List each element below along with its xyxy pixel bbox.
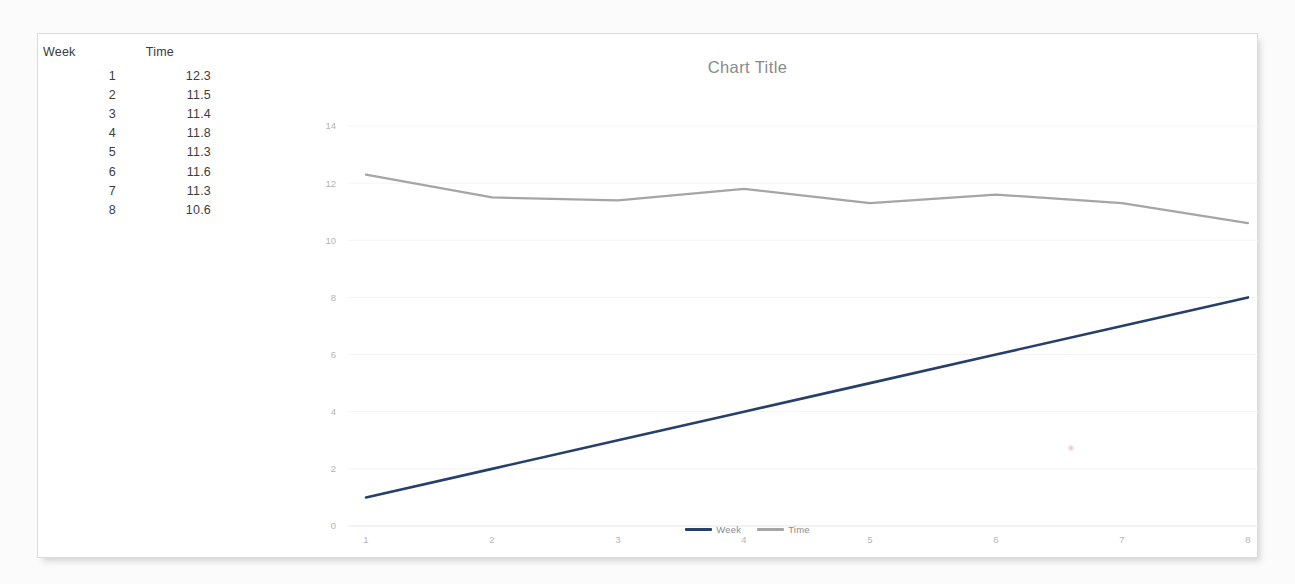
table-row: 211.5: [43, 85, 233, 104]
cell-week: 2: [43, 85, 124, 104]
table-row: 112.3: [43, 66, 233, 85]
table-row: 711.3: [43, 181, 233, 200]
chart: Chart Title 02468101214 12345678 WeekTim…: [238, 34, 1257, 557]
week-time-table: Week Time 112.3211.5311.4411.8511.3611.6…: [43, 45, 233, 220]
legend-label: Week: [716, 524, 741, 535]
y-tick-label: 8: [331, 292, 336, 303]
chart-plot-area: 02468101214 12345678: [238, 34, 1259, 559]
table-row: 611.6: [43, 162, 233, 181]
cell-time: 11.3: [124, 143, 233, 162]
x-tick-label: 3: [615, 534, 620, 545]
cell-time: 12.3: [124, 66, 233, 85]
cell-week: 3: [43, 104, 124, 123]
x-tick-label: 1: [363, 534, 368, 545]
y-axis-tick-labels: 02468101214: [325, 120, 336, 531]
cell-time: 11.5: [124, 85, 233, 104]
table-row: 810.6: [43, 200, 233, 219]
series-line-week: [366, 297, 1248, 497]
cell-week: 5: [43, 143, 124, 162]
x-tick-label: 6: [993, 534, 998, 545]
y-tick-label: 12: [325, 178, 336, 189]
x-axis-tick-labels: 12345678: [363, 534, 1250, 545]
cell-week: 1: [43, 66, 124, 85]
scanned-page-card: Week Time 112.3211.5311.4411.8511.3611.6…: [37, 33, 1258, 558]
cell-time: 11.3: [124, 181, 233, 200]
x-tick-label: 4: [741, 534, 746, 545]
series-line-time: [366, 175, 1248, 224]
cell-time: 11.4: [124, 104, 233, 123]
table-row: 411.8: [43, 124, 233, 143]
cell-week: 4: [43, 124, 124, 143]
column-header-time: Time: [124, 45, 233, 66]
scan-artifact-speck: [1069, 446, 1073, 450]
legend-swatch-week: [685, 528, 712, 531]
table-row: 511.3: [43, 143, 233, 162]
table-body: 112.3211.5311.4411.8511.3611.6711.3810.6: [43, 66, 233, 220]
x-tick-label: 8: [1245, 534, 1250, 545]
y-tick-label: 10: [325, 235, 336, 246]
y-tick-label: 4: [331, 406, 336, 417]
table-row: 311.4: [43, 104, 233, 123]
table-header-row: Week Time: [43, 45, 233, 66]
y-tick-label: 14: [325, 120, 336, 131]
table-header: Week Time: [43, 45, 233, 66]
y-tick-label: 2: [331, 463, 336, 474]
legend-item-time[interactable]: Time: [757, 524, 810, 535]
x-tick-label: 2: [489, 534, 494, 545]
legend-label: Time: [788, 524, 810, 535]
cell-week: 7: [43, 181, 124, 200]
cell-time: 11.6: [124, 162, 233, 181]
y-tick-label: 6: [331, 349, 336, 360]
data-series: [366, 175, 1248, 498]
x-tick-label: 5: [867, 534, 872, 545]
x-tick-label: 7: [1119, 534, 1124, 545]
cell-time: 10.6: [124, 200, 233, 219]
legend-swatch-time: [757, 528, 784, 531]
legend-item-week[interactable]: Week: [685, 524, 741, 535]
cell-week: 6: [43, 162, 124, 181]
cell-week: 8: [43, 200, 124, 219]
cell-time: 11.8: [124, 124, 233, 143]
chart-legend: WeekTime: [238, 524, 1257, 535]
column-header-week: Week: [43, 45, 124, 66]
